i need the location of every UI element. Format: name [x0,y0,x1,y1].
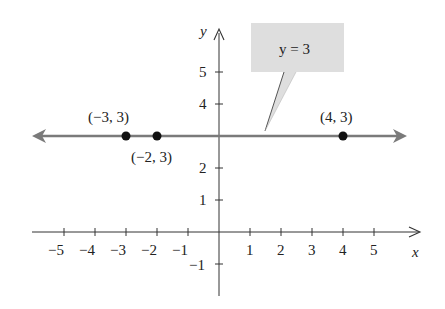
x-tick-neg4: −4 [79,242,95,258]
coordinate-plane: y = 3 y 5 4 2 1 −1 x [0,0,445,309]
point-neg2-3 [153,132,162,141]
x-tick-5: 5 [370,242,378,258]
y-tick-neg1: −1 [189,257,205,273]
x-tick-1: 1 [246,242,254,258]
x-tick-2: 2 [277,242,285,258]
point-neg3-3 [122,132,131,141]
x-tick-3: 3 [308,242,316,258]
x-tick-neg3: −3 [110,242,126,258]
x-tick-neg2: −2 [141,242,157,258]
y-tick-4: 4 [199,96,207,112]
y-axis-label: y [198,23,207,39]
x-tick-neg1: −1 [172,242,188,258]
point-label-4-3: (4, 3) [320,109,353,126]
data-points: (−3, 3) (−2, 3) (4, 3) [88,109,353,166]
x-tick-4: 4 [339,242,347,258]
x-axis-label: x [411,244,419,260]
callout-label: y = 3 [279,41,310,57]
x-axis: x −5 −4 −3 −2 −1 1 2 3 4 5 [32,227,420,260]
y-axis: y 5 4 2 1 −1 [189,23,224,296]
point-label-neg3-3: (−3, 3) [88,109,129,126]
graph-figure: y = 3 y 5 4 2 1 −1 x [0,0,445,309]
point-4-3 [339,132,348,141]
x-tick-neg5: −5 [48,242,64,258]
y-tick-5: 5 [199,64,207,80]
point-label-neg2-3: (−2, 3) [131,149,172,166]
y-tick-2: 2 [199,160,207,176]
y-tick-1: 1 [199,192,207,208]
